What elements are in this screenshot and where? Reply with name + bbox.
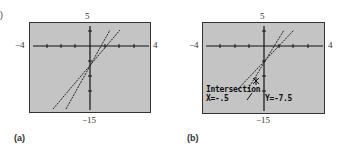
x-readout: X=-.5 xyxy=(206,95,229,103)
panel-label-b: (b) xyxy=(187,133,199,143)
xmin-label: −4 xyxy=(15,40,25,50)
calculator-screen xyxy=(29,22,151,113)
y-readout: Y=-7.5 xyxy=(265,95,292,103)
xmin-label: −4 xyxy=(189,40,199,50)
xmax-label: 4 xyxy=(328,40,333,50)
line-2 xyxy=(248,30,284,89)
cursor-pointer-line xyxy=(247,93,252,100)
xmax-label: 4 xyxy=(153,40,158,50)
panel-a: 5 −4 4 −15 (a) xyxy=(0,0,171,151)
intersection-cursor xyxy=(253,77,259,85)
ymin-label: −15 xyxy=(82,115,96,125)
ymin-label: −15 xyxy=(256,115,270,125)
panel-b: 5 −4 4 −15 Intersect xyxy=(172,0,343,151)
line-2 xyxy=(66,30,110,109)
ymax-label: 5 xyxy=(260,11,265,21)
calculator-screen: Intersection X=-.5 Y=-7.5 xyxy=(202,22,325,114)
intersection-title: Intersection xyxy=(206,86,260,94)
graph-plot xyxy=(30,23,152,114)
panel-label-a: (a) xyxy=(14,133,25,143)
ymax-label: 5 xyxy=(85,11,90,21)
